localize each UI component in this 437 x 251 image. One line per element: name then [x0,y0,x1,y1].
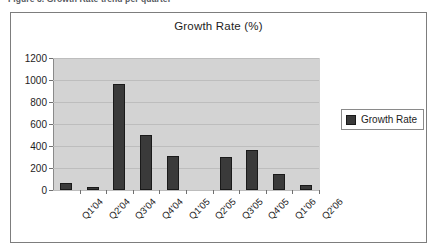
x-axis-tick [266,190,267,194]
x-axis-tick [159,190,160,194]
x-axis-tick-label: Q2'06 [319,196,345,222]
plot-wrapper: 020040060080010001200 Q1'04Q2'04Q3'04Q4'… [53,58,319,190]
bar [140,135,152,190]
x-axis-tick [80,190,81,194]
bar-slot [133,58,160,190]
y-axis-tick-label: 800 [30,97,47,108]
bar [87,187,99,190]
bar-slot [292,58,319,190]
bar-slot [53,58,80,190]
x-axis-tick [186,190,187,194]
bar-slot [186,58,213,190]
chart-frame: Growth Rate (%) 020040060080010001200 Q1… [10,12,427,243]
y-axis-tick [49,190,53,191]
clipped-figure-caption: Figure 3. Growth Rate trend per quarter [8,0,308,6]
x-axis-tick-label: Q2'04 [106,196,132,222]
x-axis-tick-label: Q3'05 [239,196,265,222]
legend-label-growth-rate: Growth Rate [361,114,417,125]
y-axis-tick-label: 0 [41,185,47,196]
x-axis-tick-label: Q1'05 [186,196,212,222]
x-axis-tick [133,190,134,194]
x-axis-tick [106,190,107,194]
x-axis-tick-label: Q1'06 [292,196,318,222]
legend-swatch-growth-rate [346,115,356,125]
y-axis-tick-label: 1200 [25,53,47,64]
bar [273,174,285,191]
x-axis-tick-label: Q1'04 [79,196,105,222]
x-axis-tick-label: Q2'05 [212,196,238,222]
x-axis-tick [319,190,320,194]
bar [167,156,179,190]
bar-slot [213,58,240,190]
chart-legend: Growth Rate [341,109,424,130]
x-axis-tick-label: Q4'04 [159,196,185,222]
bar-slot [266,58,293,190]
bar-slot [80,58,107,190]
bar [220,157,232,190]
bar [60,183,72,190]
x-axis-tick-label: Q4'05 [266,196,292,222]
y-axis-tick-label: 400 [30,141,47,152]
bar [300,185,312,190]
bar-slot [106,58,133,190]
y-axis-tick-label: 1000 [25,75,47,86]
bar-series [53,58,319,190]
bar-slot [159,58,186,190]
x-axis-tick [213,190,214,194]
x-axis-tick-label: Q3'04 [133,196,159,222]
y-axis-tick-label: 600 [30,119,47,130]
bar [113,84,125,190]
x-axis-tick [292,190,293,194]
chart-title: Growth Rate (%) [11,20,426,32]
y-axis-tick-label: 200 [30,163,47,174]
bar-slot [239,58,266,190]
bar [246,150,258,190]
x-axis-tick [239,190,240,194]
